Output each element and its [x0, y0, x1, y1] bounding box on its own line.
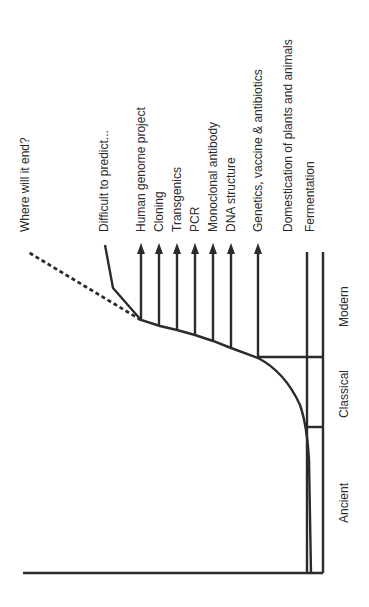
era-label-ancient: Ancient [338, 483, 350, 523]
label-difficult-to-predict: Difficult to predict... [98, 130, 110, 232]
label-transgenics: Transgenics [171, 167, 183, 232]
arrow-head-icon [173, 243, 181, 254]
label-genetics-vaccine-antibiotics: Genetics, vaccine & antibiotics [252, 69, 264, 232]
arrow-head-icon [209, 243, 217, 254]
growth-curve [105, 245, 311, 573]
arrow-head-icon [227, 243, 235, 254]
future-dashed-projection [28, 252, 141, 320]
era-label-classical: Classical [338, 370, 350, 418]
label-dna-structure: DNA structure [225, 157, 237, 232]
arrow-head-icon [191, 243, 199, 254]
arrow-head-icon [155, 243, 163, 254]
label-where-will-it-end: Where will it end? [19, 137, 31, 232]
diagram-canvas [0, 0, 369, 607]
era-label-modern: Modern [338, 286, 350, 327]
biotech-timeline-diagram: Where will it end? Difficult to predict.… [0, 0, 369, 607]
label-fermentation: Fermentation [304, 161, 316, 232]
label-human-genome-project: Human genome project [135, 107, 147, 232]
label-monoclonal-antibody: Monoclonal antibody [207, 122, 219, 232]
label-pcr: PCR [189, 207, 201, 232]
label-cloning: Cloning [153, 191, 165, 232]
arrow-head-icon [137, 243, 145, 254]
label-domestication: Domestication of plants and animals [282, 39, 294, 232]
arrow-head-icon [254, 243, 262, 254]
